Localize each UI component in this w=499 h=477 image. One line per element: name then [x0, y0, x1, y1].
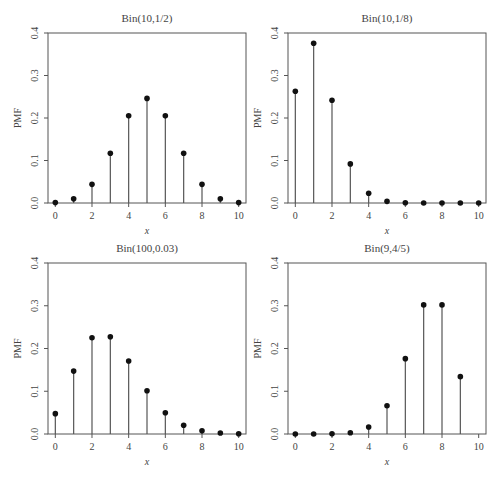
y-tick-label: 0.2	[29, 112, 40, 125]
data-point	[348, 430, 354, 436]
x-tick-label: 2	[329, 210, 334, 221]
y-tick-label: 0.4	[269, 257, 280, 270]
y-tick-label: 0.4	[29, 257, 40, 270]
figure-2x2-binomial-pmfs: Bin(10,1/2)0246810x0.00.10.20.30.4PMFBin…	[0, 0, 499, 477]
panel-3: Bin(9,4/5)0246810x0.00.10.20.30.4PMF	[252, 242, 486, 467]
data-point	[384, 199, 390, 205]
data-point	[89, 335, 95, 341]
data-point	[384, 403, 390, 409]
data-point	[144, 96, 150, 102]
chart-title: Bin(100,0.03)	[116, 242, 178, 255]
y-tick-label: 0.0	[269, 428, 280, 441]
data-point	[218, 196, 224, 202]
x-axis: 0246810	[53, 203, 244, 221]
chart-title: Bin(10,1/8)	[361, 12, 412, 25]
x-tick-label: 0	[293, 210, 298, 221]
data-point	[329, 431, 335, 437]
y-tick-label: 0.0	[29, 197, 40, 210]
y-axis: 0.00.10.20.30.4	[29, 257, 48, 441]
data-point	[311, 431, 317, 437]
data-point	[181, 422, 187, 428]
chart-title: Bin(10,1/2)	[121, 12, 172, 25]
x-axis: 0246810	[293, 434, 484, 452]
x-tick-label: 2	[329, 441, 334, 452]
data-point	[181, 150, 187, 156]
data-point	[458, 374, 464, 380]
data-point	[311, 40, 317, 46]
data-point	[421, 200, 427, 206]
x-axis-label: x	[384, 225, 390, 236]
x-tick-label: 6	[403, 210, 408, 221]
x-tick-label: 4	[126, 210, 131, 221]
data-point	[163, 410, 169, 416]
data-point	[126, 358, 132, 364]
y-axis-label: PMF	[252, 338, 263, 358]
y-tick-label: 0.3	[269, 300, 280, 313]
x-tick-label: 2	[89, 441, 94, 452]
chart-canvas: Bin(10,1/2)0246810x0.00.10.20.30.4PMFBin…	[0, 0, 499, 477]
data-point	[71, 368, 77, 374]
x-tick-label: 0	[53, 441, 58, 452]
x-tick-label: 8	[440, 441, 445, 452]
data-point	[293, 431, 299, 437]
pmf-series	[293, 40, 482, 205]
panel-0: Bin(10,1/2)0246810x0.00.10.20.30.4PMF	[12, 12, 246, 236]
pmf-series	[293, 302, 464, 437]
data-point	[421, 302, 427, 308]
y-axis-label: PMF	[252, 108, 263, 128]
data-point	[458, 200, 464, 206]
data-point	[293, 88, 299, 94]
x-axis-label: x	[384, 456, 390, 467]
y-tick-label: 0.4	[29, 27, 40, 40]
x-tick-label: 8	[200, 441, 205, 452]
y-tick-label: 0.1	[29, 385, 40, 398]
data-point	[439, 200, 445, 206]
y-tick-label: 0.0	[269, 197, 280, 210]
y-tick-label: 0.1	[29, 154, 40, 167]
data-point	[126, 113, 132, 119]
y-tick-label: 0.1	[269, 385, 280, 398]
data-point	[366, 190, 372, 196]
x-tick-label: 4	[366, 210, 371, 221]
y-axis-label: PMF	[12, 108, 23, 128]
data-point	[236, 431, 242, 437]
data-point	[236, 200, 242, 206]
y-tick-label: 0.3	[29, 69, 40, 82]
data-point	[218, 430, 224, 436]
x-tick-label: 8	[440, 210, 445, 221]
x-axis: 0246810	[293, 203, 484, 221]
data-point	[348, 161, 354, 167]
y-tick-label: 0.0	[29, 428, 40, 441]
chart-title: Bin(9,4/5)	[364, 242, 410, 255]
x-tick-label: 10	[474, 441, 484, 452]
x-tick-label: 4	[366, 441, 371, 452]
data-point	[108, 150, 114, 156]
x-tick-label: 6	[163, 441, 168, 452]
x-axis: 0246810	[53, 434, 244, 452]
data-point	[476, 200, 482, 206]
x-axis-label: x	[144, 456, 150, 467]
x-tick-label: 10	[234, 210, 244, 221]
x-tick-label: 0	[53, 210, 58, 221]
x-tick-label: 0	[293, 441, 298, 452]
x-tick-label: 10	[234, 441, 244, 452]
x-tick-label: 10	[474, 210, 484, 221]
data-point	[71, 196, 77, 202]
x-tick-label: 8	[200, 210, 205, 221]
y-axis-label: PMF	[12, 338, 23, 358]
x-tick-label: 2	[89, 210, 94, 221]
data-point	[199, 182, 205, 188]
y-tick-label: 0.2	[29, 342, 40, 355]
data-point	[53, 411, 59, 417]
x-tick-label: 4	[126, 441, 131, 452]
pmf-series	[53, 334, 242, 437]
y-tick-label: 0.3	[269, 69, 280, 82]
plot-frame	[288, 33, 486, 203]
data-point	[163, 113, 169, 119]
data-point	[439, 302, 445, 308]
y-tick-label: 0.4	[269, 27, 280, 40]
data-point	[329, 98, 335, 104]
y-tick-label: 0.1	[269, 154, 280, 167]
y-axis: 0.00.10.20.30.4	[269, 27, 288, 210]
data-point	[366, 424, 372, 430]
